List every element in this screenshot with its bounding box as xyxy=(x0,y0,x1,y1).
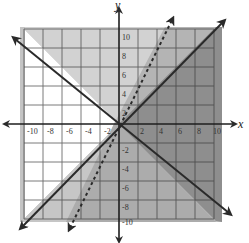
x-axis-label: x xyxy=(237,117,244,131)
svg-text:8: 8 xyxy=(122,52,126,61)
svg-text:10: 10 xyxy=(122,33,130,42)
svg-text:6: 6 xyxy=(122,71,126,80)
svg-text:10: 10 xyxy=(213,127,221,136)
svg-text:-4: -4 xyxy=(85,127,92,136)
svg-text:-6: -6 xyxy=(122,184,129,193)
svg-text:4: 4 xyxy=(159,127,163,136)
svg-text:6: 6 xyxy=(178,127,182,136)
svg-text:8: 8 xyxy=(197,127,201,136)
svg-text:-8: -8 xyxy=(122,203,129,212)
svg-text:-10: -10 xyxy=(122,218,133,227)
svg-text:-8: -8 xyxy=(47,127,54,136)
svg-text:-10: -10 xyxy=(27,127,38,136)
svg-text:4: 4 xyxy=(122,90,126,99)
coordinate-plane: -10 -8 -6 -4 -2 2 4 6 8 10 10 8 6 4 2 -2… xyxy=(0,0,249,243)
svg-text:-2: -2 xyxy=(122,146,129,155)
svg-text:2: 2 xyxy=(140,127,144,136)
svg-text:-2: -2 xyxy=(104,127,111,136)
svg-text:-4: -4 xyxy=(122,165,129,174)
svg-text:2: 2 xyxy=(122,109,126,118)
svg-text:-6: -6 xyxy=(66,127,73,136)
y-axis-label: y xyxy=(114,0,121,12)
